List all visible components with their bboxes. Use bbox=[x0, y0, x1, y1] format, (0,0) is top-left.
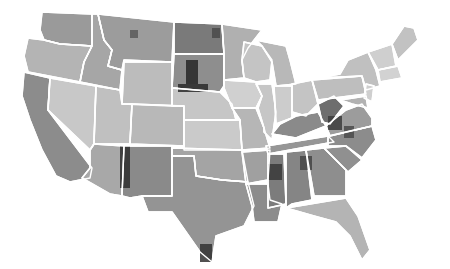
state-co bbox=[130, 104, 184, 146]
state-shapes bbox=[22, 12, 418, 262]
dark-county-cluster bbox=[130, 30, 138, 38]
dark-county-cluster bbox=[212, 28, 220, 38]
us-county-choropleth-map bbox=[0, 0, 450, 269]
dark-county-cluster bbox=[268, 164, 282, 180]
dark-county-cluster bbox=[300, 156, 312, 170]
dark-county-cluster bbox=[120, 146, 130, 188]
dark-county-cluster bbox=[186, 60, 198, 84]
state-ks bbox=[184, 120, 242, 150]
state-wy bbox=[122, 62, 172, 106]
state-ar bbox=[242, 150, 270, 184]
